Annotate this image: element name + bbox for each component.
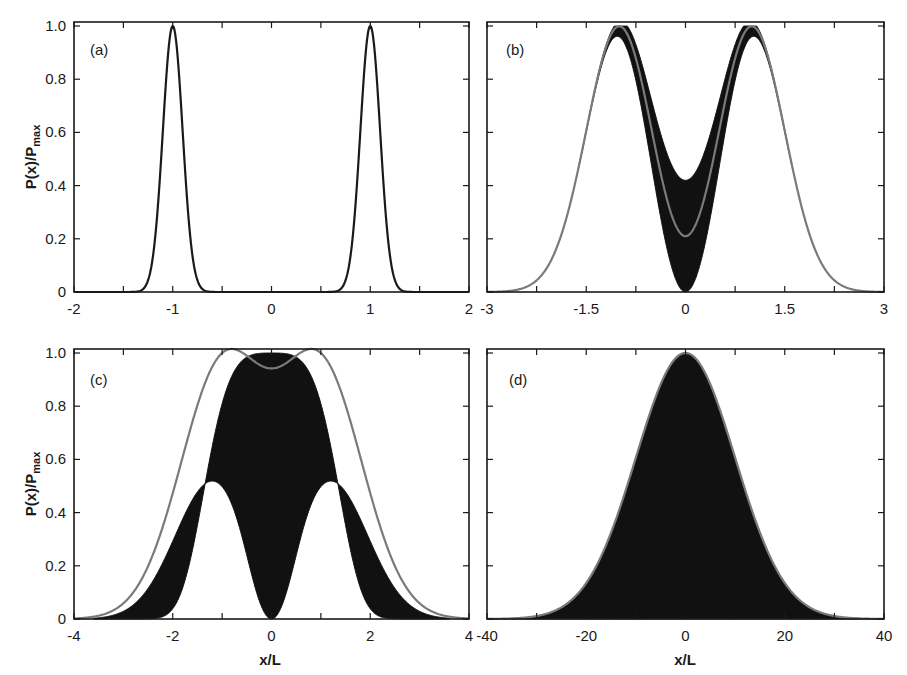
panel-a-label: (a) [90, 41, 108, 58]
oscillation-band [512, 353, 859, 619]
x-tick-label: -20 [575, 627, 597, 644]
x-tick-label: 20 [776, 627, 793, 644]
y-tick-label: 0 [58, 610, 66, 627]
x-tick-label: -40 [476, 627, 498, 644]
panel-b-plot-area: -3-1.501.53 [480, 22, 888, 317]
panel-b-label: (b) [506, 41, 524, 58]
y-axis-label-main: P(x)/P [22, 147, 39, 190]
y-axis-label-top: P(x)/Pmax [22, 124, 42, 189]
x-tick-label: 40 [876, 627, 893, 644]
panel-c-plot-area: -4-202400.20.40.60.81.0 [45, 344, 473, 644]
panel-a: -2-101200.20.40.60.81.0 (a) [45, 17, 473, 317]
y-axis-label-main: P(x)/P [22, 474, 39, 517]
x-tick-label: -2 [166, 627, 179, 644]
y-tick-label: 0.6 [45, 123, 66, 140]
x-tick-label: -1.5 [573, 300, 599, 317]
x-tick-label: 0 [267, 300, 275, 317]
y-tick-label: 0.4 [45, 504, 66, 521]
x-tick-label: -2 [67, 300, 80, 317]
panel-d-label: (d) [509, 371, 527, 388]
y-tick-label: 0.8 [45, 397, 66, 414]
panel-d: -40-2002040 (d) [476, 349, 892, 644]
panel-c: -4-202400.20.40.60.81.0 (c) [45, 344, 473, 644]
x-tick-label: 0 [681, 300, 689, 317]
figure-canvas: -2-101200.20.40.60.81.0 (a) -3-1.501.53 … [0, 0, 907, 675]
data-curve [74, 26, 469, 292]
y-tick-label: 0.2 [45, 230, 66, 247]
x-axis-label-c: x/L [259, 651, 281, 668]
x-axis-label-d: x/L [674, 651, 696, 668]
oscillation-band [94, 353, 450, 619]
plot-frame [74, 22, 469, 292]
x-tick-label: -3 [480, 300, 493, 317]
y-tick-label: 1.0 [45, 17, 66, 34]
panel-c-label: (c) [90, 371, 108, 388]
y-axis-label-bottom: P(x)/Pmax [22, 451, 42, 516]
oscillation-band [580, 26, 792, 292]
x-tick-label: -1 [166, 300, 179, 317]
panel-a-plot-area: -2-101200.20.40.60.81.0 [45, 17, 473, 317]
y-tick-label: 1.0 [45, 344, 66, 361]
x-tick-label: 3 [880, 300, 888, 317]
x-tick-label: -4 [67, 627, 80, 644]
panel-d-plot-area: -40-2002040 [476, 349, 892, 644]
y-axis-label-sub: max [30, 451, 42, 474]
y-tick-label: 0.4 [45, 177, 66, 194]
x-tick-label: 1.5 [774, 300, 795, 317]
y-axis-label-sub: max [30, 124, 42, 147]
y-tick-label: 0.2 [45, 557, 66, 574]
x-tick-label: 2 [366, 627, 374, 644]
x-tick-label: 0 [267, 627, 275, 644]
x-tick-label: 1 [366, 300, 374, 317]
y-tick-label: 0.8 [45, 70, 66, 87]
panel-b: -3-1.501.53 (b) [480, 22, 888, 317]
x-tick-label: 0 [681, 627, 689, 644]
x-tick-label: 4 [465, 627, 473, 644]
x-tick-label: 2 [465, 300, 473, 317]
y-tick-label: 0.6 [45, 450, 66, 467]
y-tick-label: 0 [58, 283, 66, 300]
